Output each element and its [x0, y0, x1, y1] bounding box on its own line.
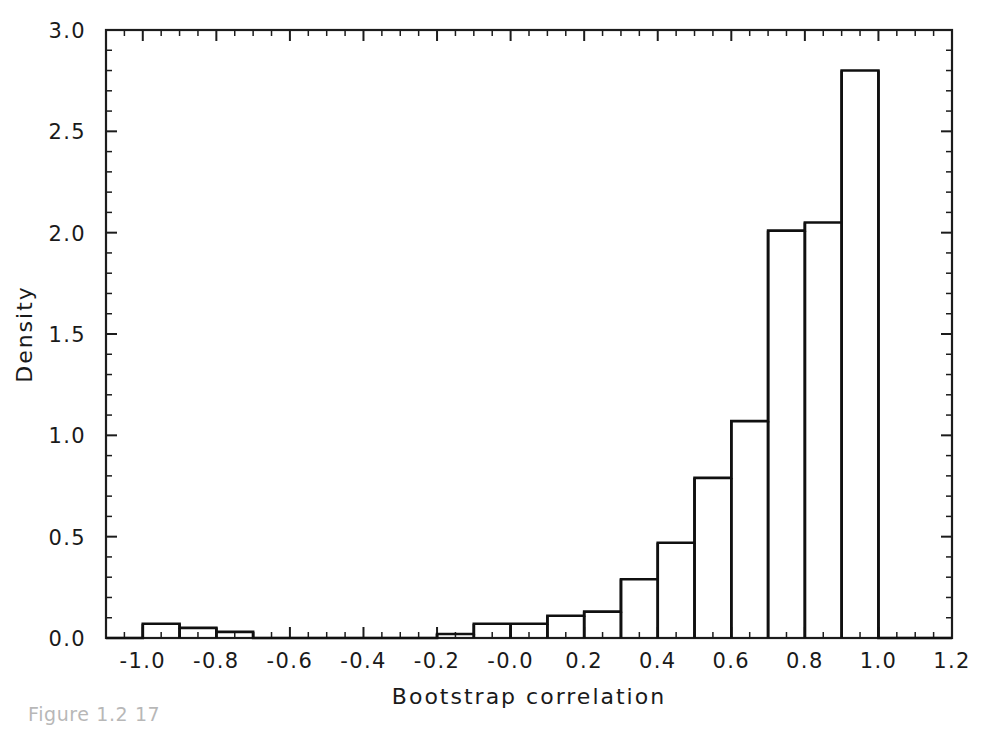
y-tick-labels: 0.00.51.01.52.02.53.0	[48, 19, 86, 651]
caption-text: Figure 1.2 17	[28, 703, 160, 725]
y-tick-label: 3.0	[48, 19, 86, 43]
page-caption-fragment: Figure 1.2 17	[0, 701, 986, 731]
y-major-ticks	[106, 30, 952, 638]
x-tick-label: 1.0	[860, 649, 898, 673]
x-tick-label: -0.8	[193, 649, 240, 673]
x-tick-label: -0.6	[267, 649, 314, 673]
y-tick-label: 1.0	[48, 424, 86, 448]
y-tick-label: 1.5	[48, 323, 86, 347]
x-tick-label: 0.6	[712, 649, 750, 673]
y-minor-ticks	[106, 50, 952, 617]
x-tick-label: 0.4	[639, 649, 677, 673]
x-tick-label: -1.0	[119, 649, 166, 673]
y-tick-label: 2.0	[48, 222, 86, 246]
figure-histogram-bootstrap-correlation: -1.0-0.8-0.6-0.4-0.2-0.00.20.40.60.81.01…	[0, 0, 986, 731]
x-tick-labels: -1.0-0.8-0.6-0.4-0.2-0.00.20.40.60.81.01…	[119, 649, 970, 673]
x-major-ticks	[143, 30, 952, 638]
x-tick-label: -0.2	[414, 649, 461, 673]
y-tick-label: 0.0	[48, 627, 86, 651]
x-tick-label: 0.2	[565, 649, 603, 673]
y-tick-label: 0.5	[48, 526, 86, 550]
chart-canvas: -1.0-0.8-0.6-0.4-0.2-0.00.20.40.60.81.01…	[0, 0, 986, 731]
x-minor-ticks	[106, 30, 934, 638]
histogram-outline	[106, 71, 952, 638]
y-tick-label: 2.5	[48, 120, 86, 144]
x-tick-label: 1.2	[933, 649, 971, 673]
y-axis-title: Density	[12, 285, 37, 383]
x-tick-label: 0.8	[786, 649, 824, 673]
x-tick-label: -0.0	[487, 649, 534, 673]
axes-frame	[106, 30, 952, 638]
x-tick-label: -0.4	[340, 649, 387, 673]
plot-border	[106, 30, 952, 638]
histogram-step-outline	[106, 71, 952, 638]
